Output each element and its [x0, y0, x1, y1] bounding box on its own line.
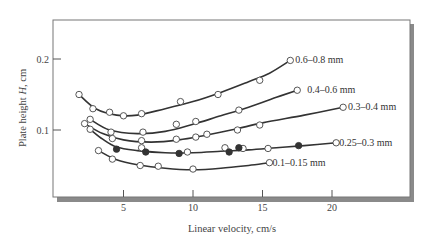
open-data-point	[106, 109, 112, 115]
open-data-point	[95, 147, 101, 153]
open-data-point	[193, 118, 199, 124]
open-data-point	[215, 91, 221, 97]
open-data-point	[193, 134, 199, 140]
open-data-point	[257, 122, 263, 128]
open-data-point	[76, 91, 82, 97]
x-tick-label: 5	[121, 202, 126, 213]
series-label: 0.6–0.8 mm	[295, 54, 343, 65]
open-data-point	[120, 113, 126, 119]
open-data-point	[109, 135, 115, 141]
y-axis-label: Plate height H, cm	[17, 69, 28, 147]
open-data-point	[177, 98, 183, 104]
filled-data-point	[236, 145, 242, 151]
open-data-point	[190, 166, 196, 172]
open-data-point	[137, 162, 143, 168]
filled-data-point	[226, 149, 232, 155]
open-data-point	[340, 104, 346, 110]
open-data-point	[265, 145, 271, 151]
open-data-point	[184, 149, 190, 155]
open-data-point	[90, 106, 96, 112]
open-data-point	[294, 87, 300, 93]
open-data-point	[81, 120, 87, 126]
open-data-point	[155, 163, 161, 169]
series-label: 0.25–0.3 mm	[339, 137, 392, 148]
y-tick-label: 0.2	[37, 54, 50, 65]
open-data-point	[236, 107, 242, 113]
x-tick-label: 20	[327, 202, 337, 213]
open-data-point	[87, 116, 93, 122]
open-data-point	[257, 77, 263, 83]
open-data-point	[87, 126, 93, 132]
open-data-point	[173, 121, 179, 127]
open-data-point	[109, 156, 115, 162]
chart: 51015200.10.2 0.6–0.8 mm0.4–0.6 mm0.3–0.…	[0, 0, 437, 239]
filled-data-point	[113, 146, 119, 152]
x-tick-label: 15	[258, 202, 268, 213]
open-data-point	[234, 127, 240, 133]
open-data-point	[140, 129, 146, 135]
series-label: 0.4–0.6 mm	[307, 84, 355, 95]
open-data-point	[287, 57, 293, 63]
open-data-point	[204, 131, 210, 137]
open-data-point	[138, 110, 144, 116]
series-label: 0.3–0.4 mm	[348, 101, 396, 112]
filled-data-point	[295, 142, 301, 148]
y-tick-label: 0.1	[37, 125, 50, 136]
open-data-point	[108, 129, 114, 135]
open-data-point	[138, 137, 144, 143]
open-data-point	[173, 136, 179, 142]
x-axis-label: Linear velocity, cm/s	[188, 223, 276, 234]
filled-data-point	[176, 150, 182, 156]
filled-data-point	[143, 149, 149, 155]
x-tick-label: 10	[188, 202, 198, 213]
series-label: 0.1–0.15 mm	[272, 157, 325, 168]
